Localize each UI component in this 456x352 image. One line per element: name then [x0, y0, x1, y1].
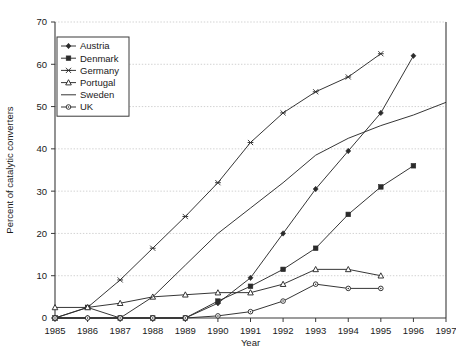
x-tick-label-1989: 1989	[175, 325, 196, 336]
series-point-uk-1989	[183, 316, 188, 321]
x-tick-label-1993: 1993	[305, 325, 326, 336]
y-tick-label-50: 50	[36, 101, 47, 112]
series-point-denmark-1994	[346, 212, 351, 217]
marker-square	[379, 185, 384, 190]
series-point-uk-1993	[313, 282, 318, 287]
series-point-uk-1985	[53, 316, 58, 321]
y-tick-label-0: 0	[42, 312, 47, 323]
legend-label-sweden: Sweden	[80, 89, 114, 100]
y-tick-label-70: 70	[36, 16, 47, 27]
legend-label-denmark: Denmark	[80, 53, 119, 64]
x-tick-label-1991: 1991	[240, 325, 261, 336]
x-tick-label-1990: 1990	[207, 325, 228, 336]
marker-triangle	[280, 281, 286, 286]
x-tick-label-1992: 1992	[273, 325, 294, 336]
x-tick-label-1996: 1996	[403, 325, 424, 336]
marker-square	[313, 246, 318, 251]
series-point-uk-1991	[248, 309, 253, 314]
legend-marker-uk	[66, 105, 71, 110]
marker-circle-dot	[250, 311, 252, 313]
y-tick-label-30: 30	[36, 186, 47, 197]
series-point-uk-1990	[216, 314, 221, 319]
marker-circle-dot	[315, 283, 317, 285]
marker-square	[248, 284, 253, 289]
series-point-germany-1990	[215, 180, 221, 185]
marker-circle-dot	[87, 317, 89, 319]
series-point-denmark-1993	[313, 246, 318, 251]
y-tick-label-20: 20	[36, 228, 47, 239]
legend-label-austria: Austria	[80, 40, 110, 51]
series-line-denmark	[55, 166, 413, 318]
legend-label-portugal: Portugal	[80, 77, 115, 88]
series-point-denmark-1995	[379, 185, 384, 190]
y-tick-label-60: 60	[36, 59, 47, 70]
legend-marker-denmark	[66, 56, 71, 61]
series-point-germany-1992	[280, 110, 286, 115]
marker-circle-dot	[217, 315, 219, 317]
marker-square	[411, 163, 416, 168]
chart-canvas: 0102030405060701985198619871988198919901…	[0, 0, 456, 352]
series-point-germany-1989	[182, 214, 188, 219]
marker-circle-dot	[68, 106, 70, 108]
series-point-uk-1994	[346, 286, 351, 291]
series-point-germany-1995	[378, 51, 384, 56]
x-tick-label-1997: 1997	[435, 325, 456, 336]
series-point-denmark-1991	[248, 284, 253, 289]
y-tick-label-10: 10	[36, 270, 47, 281]
x-tick-label-1994: 1994	[338, 325, 359, 336]
series-point-uk-1987	[118, 316, 123, 321]
series-point-germany-1991	[248, 140, 254, 145]
marker-circle-dot	[152, 317, 154, 319]
x-tick-label-1988: 1988	[142, 325, 163, 336]
legend-label-germany: Germany	[80, 65, 119, 76]
series-point-germany-1988	[150, 246, 156, 251]
x-tick-label-1986: 1986	[77, 325, 98, 336]
marker-square	[281, 267, 286, 272]
series-point-uk-1986	[85, 316, 90, 321]
marker-circle-dot	[54, 317, 56, 319]
series-point-uk-1988	[150, 316, 155, 321]
series-point-germany-1994	[345, 74, 351, 79]
series-point-austria-1996	[411, 53, 416, 58]
series-point-denmark-1996	[411, 163, 416, 168]
x-axis-title: Year	[241, 337, 260, 348]
series-point-denmark-1992	[281, 267, 286, 272]
series-point-portugal-1992	[280, 281, 286, 286]
marker-circle-dot	[282, 300, 284, 302]
series-point-uk-1995	[379, 286, 384, 291]
series-point-germany-1987	[117, 277, 123, 282]
marker-circle-dot	[380, 288, 382, 290]
marker-square	[66, 56, 71, 61]
x-tick-label-1985: 1985	[44, 325, 65, 336]
marker-circle-dot	[348, 288, 350, 290]
line-chart: 0102030405060701985198619871988198919901…	[0, 0, 456, 352]
marker-square	[216, 299, 221, 304]
series-point-denmark-1990	[216, 299, 221, 304]
y-axis-title: Percent of catalytic converters	[4, 106, 15, 233]
marker-square	[346, 212, 351, 217]
marker-circle-dot	[119, 317, 121, 319]
y-tick-label-40: 40	[36, 143, 47, 154]
series-point-uk-1992	[281, 299, 286, 304]
series-point-germany-1993	[313, 89, 319, 94]
marker-circle-dot	[185, 317, 187, 319]
legend-label-uk: UK	[80, 101, 94, 112]
x-tick-label-1995: 1995	[370, 325, 391, 336]
marker-diamond	[411, 53, 416, 58]
x-tick-label-1987: 1987	[110, 325, 131, 336]
